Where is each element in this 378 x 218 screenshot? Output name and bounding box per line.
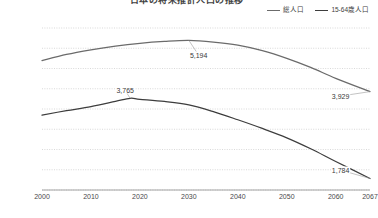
annotation-leader-lines [125,40,370,178]
legend-line-swatch-working-age [315,10,328,11]
series-lines [42,40,370,178]
data-point-label: 3,765 [115,87,135,94]
series-line-working-age-population [42,98,370,178]
x-tick-label: 2010 [83,193,99,200]
x-tick-label: 2067 [362,193,378,200]
x-tick-label: 2000 [34,193,50,200]
x-axis-labels: 20002010202020302040205020602067 [0,193,373,207]
data-point-label: 1,784 [331,167,351,174]
chart-title: 日本の将来推計人口の推移 [0,0,373,6]
x-tick-label: 2030 [181,193,197,200]
x-tick-label: 2020 [132,193,148,200]
data-point-label: 3,929 [331,93,351,100]
x-tick-label: 2050 [279,193,295,200]
legend-item-total-population[interactable]: 総人口 [267,7,304,14]
x-tick-label: 2060 [328,193,344,200]
legend-item-working-age-population[interactable]: 15-64歳人口 [315,7,369,14]
legend-label-working-age: 15-64歳人口 [331,7,369,14]
legend-line-swatch-total [267,10,280,11]
legend-label-total: 総人口 [283,7,304,14]
data-point-label: 5,194 [189,52,209,59]
x-tick-label: 2040 [230,193,246,200]
chart-legend: 総人口 15-64歳人口 [267,7,369,14]
